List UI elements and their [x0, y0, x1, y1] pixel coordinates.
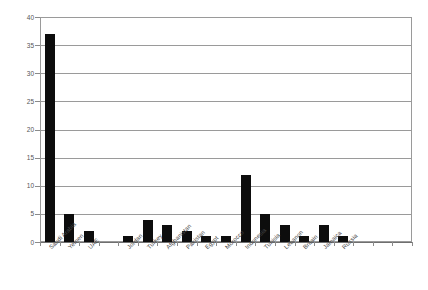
gridline-10: [40, 186, 412, 187]
y-tick-label-10: 10: [10, 182, 34, 189]
bar-chart: 0510152025303540 Saudi ArabiaYemenUAEJor…: [0, 0, 428, 290]
x-tick-4: [118, 242, 119, 246]
x-tick-18: [392, 242, 393, 246]
y-tick-label-20: 20: [10, 126, 34, 133]
bar-saudi-arabia: [45, 34, 55, 242]
y-tick-label-25: 25: [10, 98, 34, 105]
y-axis-line: [40, 17, 41, 243]
gridline-40: [40, 17, 412, 18]
x-tick-2: [79, 242, 80, 246]
x-tick-9: [216, 242, 217, 246]
y-tick-label-0: 0: [10, 239, 34, 246]
x-tick-5: [138, 242, 139, 246]
x-tick-14: [314, 242, 315, 246]
y-tick-label-5: 5: [10, 210, 34, 217]
gridline-35: [40, 45, 412, 46]
y-tick-label-40: 40: [10, 14, 34, 21]
gridline-5: [40, 214, 412, 215]
gridline-25: [40, 101, 412, 102]
gridline-15: [40, 158, 412, 159]
x-tick-16: [353, 242, 354, 246]
y-tick-label-15: 15: [10, 154, 34, 161]
y-tick-label-30: 30: [10, 70, 34, 77]
gridline-30: [40, 73, 412, 74]
x-tick-17: [373, 242, 374, 246]
bar-turkey: [143, 220, 153, 243]
x-tick-7: [177, 242, 178, 246]
x-tick-10: [236, 242, 237, 246]
x-tick-19: [412, 242, 413, 246]
y-tick-label-35: 35: [10, 42, 34, 49]
x-tick-0: [40, 242, 41, 246]
gridline-20: [40, 130, 412, 131]
x-tick-12: [275, 242, 276, 246]
